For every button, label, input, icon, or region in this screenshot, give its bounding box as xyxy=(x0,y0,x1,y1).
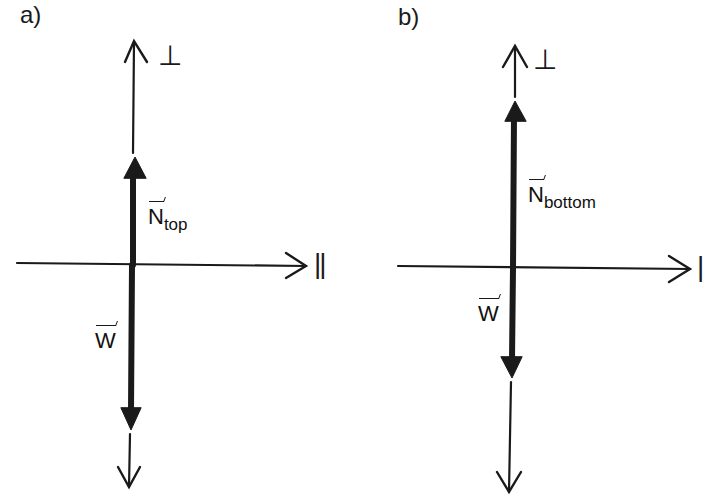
panel-a-weight-arrowhead-icon xyxy=(121,408,141,430)
panel-a-weight-symbol: W xyxy=(95,330,116,352)
panel-a-perp-axis-label: ⊥ xyxy=(158,42,182,70)
panel-b-normal-force-arrowhead-icon xyxy=(505,101,526,121)
panel-b-weight-symbol: W xyxy=(478,303,499,325)
panel-b-parallel-axis xyxy=(398,266,690,269)
panel-a-weight-label: W xyxy=(95,330,116,352)
panel-b-diagram xyxy=(398,46,690,492)
panel-b-parallel-axis-label: | xyxy=(697,253,704,281)
panel-b-weight-label: W xyxy=(478,303,499,325)
panel-b-normal-force-label: Nbottom xyxy=(528,184,596,206)
panel-a-diagram xyxy=(17,41,306,487)
panel-b-normal-force-shaft xyxy=(513,115,514,268)
panel-a-normal-force-arrowhead-icon xyxy=(124,157,146,178)
free-body-diagrams xyxy=(0,0,707,497)
panel-b-label: b) xyxy=(398,5,419,29)
panel-b-weight-arrowhead-icon xyxy=(501,357,522,378)
panel-a-parallel-axis-label: || xyxy=(314,250,325,278)
panel-b-weight-shaft xyxy=(512,268,513,360)
panel-a-perp-axis-top xyxy=(133,42,134,153)
panel-a-perp-axis-arrowhead-icon xyxy=(125,41,147,62)
panel-b-normal-force-symbol: N xyxy=(528,184,544,206)
panel-b-perp-axis-label: ⊥ xyxy=(533,46,557,74)
panel-b-normal-force-subscript: bottom xyxy=(544,193,596,212)
panel-a-perp-axis-bottom xyxy=(129,434,130,487)
panel-a-weight-shaft xyxy=(131,265,132,410)
panel-b-perp-axis-bottom xyxy=(509,382,511,492)
panel-a-parallel-axis xyxy=(17,263,306,266)
panel-a-normal-force-label: Ntop xyxy=(148,206,188,228)
panel-a-label: a) xyxy=(20,3,41,27)
panel-a-normal-force-subscript: top xyxy=(164,215,188,234)
panel-a-normal-force-symbol: N xyxy=(148,206,164,228)
